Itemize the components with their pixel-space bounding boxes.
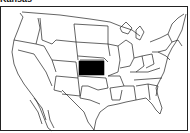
kansas-highlight: [79, 61, 104, 75]
us-map: [0, 0, 190, 133]
